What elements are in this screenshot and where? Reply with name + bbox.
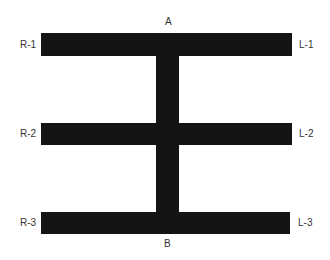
label-right-2: L-2 xyxy=(299,129,313,139)
label-left-1: R-1 xyxy=(20,40,36,50)
label-right-1: L-1 xyxy=(299,40,313,50)
vertical-bar xyxy=(156,33,179,234)
label-right-3: L-3 xyxy=(298,218,312,228)
label-left-3: R-3 xyxy=(20,218,36,228)
label-left-2: R-2 xyxy=(20,129,36,139)
label-top: A xyxy=(165,17,172,27)
label-bottom: B xyxy=(164,239,171,249)
